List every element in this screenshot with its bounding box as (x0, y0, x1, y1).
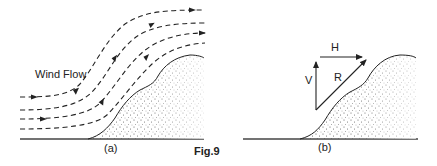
wind-flow-label: Wind Flow (35, 68, 86, 80)
arrow-icon (31, 95, 38, 100)
panel-b (243, 55, 418, 139)
panel-a-label: (a) (104, 142, 117, 154)
vector-h-label: H (331, 41, 339, 53)
arrow-icon (111, 53, 119, 62)
diagram-figure: Wind Flow (a) Fig.9 (b) H V R (0, 0, 437, 166)
arrow-icon (199, 31, 206, 36)
diagram-canvas (0, 0, 437, 166)
arrow-icon (40, 117, 47, 122)
arrow-icon (189, 8, 196, 13)
arrow-icon (148, 21, 156, 28)
panel-b-label: (b) (318, 141, 331, 153)
figure-caption: Fig.9 (194, 145, 220, 157)
arrow-icon (72, 86, 81, 95)
vector-v-label: V (305, 74, 312, 86)
arrow-icon (99, 97, 107, 105)
vector-r-label: R (334, 71, 342, 83)
arrow-icon (143, 52, 151, 60)
